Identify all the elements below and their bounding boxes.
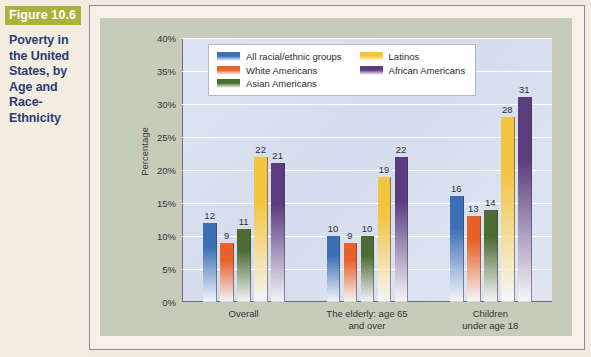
bar-value-label: 31 [519,84,530,95]
y-axis-tick-label: 35% [157,66,176,77]
figure-title: Poverty in the United States, by Age and… [9,33,83,126]
bar: 9 [344,243,358,302]
figure-caption-column: Figure 10.6 Poverty in the United States… [0,0,86,357]
x-axis-category-label: Overall [229,308,259,320]
y-axis-tick-label: 25% [157,132,176,143]
bar: 22 [395,157,409,302]
legend-column-right: LatinosAfrican Americans [360,51,466,89]
legend-item: African Americans [360,65,466,76]
bar: 28 [501,117,515,302]
legend-label: African Americans [389,65,466,76]
bar-value-label: 14 [485,197,496,208]
bar: 11 [237,229,251,302]
bar: 22 [254,157,268,302]
bar: 10 [327,236,341,302]
bar: 12 [203,223,217,302]
bar-value-label: 22 [255,144,266,155]
bar: 10 [361,236,375,302]
legend-label: Asian Americans [246,78,317,89]
legend-swatch-white-americans [217,66,240,75]
y-axis-tick-label: 0% [162,297,176,308]
chart-panel: Percentage 0%5%10%15%20%25%30%35%40% 129… [89,5,585,350]
bar-value-label: 9 [224,230,229,241]
y-axis-tick-label: 20% [157,165,176,176]
bar: 13 [467,216,481,302]
bar-value-label: 16 [451,183,462,194]
bar: 21 [271,163,285,302]
bar-value-label: 11 [239,216,249,227]
legend-item: Asian Americans [217,78,342,89]
bar: 9 [220,243,234,302]
y-axis-tick-label: 40% [157,33,176,44]
legend-label: All racial/ethnic groups [246,51,342,62]
legend-swatch-african-americans [360,66,383,75]
legend-item: Latinos [360,51,466,62]
chart-canvas: Percentage 0%5%10%15%20%25%30%35%40% 129… [100,18,572,336]
y-axis-tick-label: 5% [162,264,176,275]
bar: 16 [450,196,464,302]
bar-value-label: 10 [362,223,373,234]
y-axis-tick-label: 30% [157,99,176,110]
y-axis-tick-label: 10% [157,231,176,242]
bar: 19 [378,177,392,302]
legend-swatch-asian-americans [217,79,240,88]
legend-swatch-latinos [360,52,383,61]
bar-value-label: 13 [468,203,479,214]
bar-value-label: 21 [272,150,283,161]
legend-item: All racial/ethnic groups [217,51,342,62]
bar-value-label: 12 [204,210,215,221]
bar-value-label: 22 [396,144,407,155]
legend-label: Latinos [389,51,420,62]
bar-value-label: 9 [347,230,352,241]
figure-page: Figure 10.6 Poverty in the United States… [0,0,591,357]
bar: 31 [518,97,532,302]
legend-item: White Americans [217,65,342,76]
legend-swatch-all-racial-ethnic-groups [217,52,240,61]
bar-value-label: 28 [502,104,513,115]
bar-value-label: 19 [379,164,390,175]
bar: 14 [484,210,498,302]
bar-value-label: 10 [328,223,339,234]
chart-legend: All racial/ethnic groupsWhite AmericansA… [208,44,476,96]
figure-number-badge: Figure 10.6 [5,6,81,25]
legend-column-left: All racial/ethnic groupsWhite AmericansA… [217,51,342,89]
legend-label: White Americans [246,65,317,76]
x-axis-category-label: The elderly: age 65 and over [326,308,407,332]
y-axis-tick-label: 15% [157,198,176,209]
y-axis-title: Percentage [139,92,150,212]
x-axis-category-label: Children under age 18 [462,308,518,332]
